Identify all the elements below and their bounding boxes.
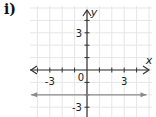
- x-axis-label: x: [145, 54, 153, 67]
- coordinate-plane: -333-30xy: [0, 0, 156, 117]
- axes: [30, 10, 149, 117]
- origin-label: 0: [78, 72, 84, 83]
- line-right-arrow-icon: [141, 92, 147, 97]
- x-tick-label: -3: [45, 76, 55, 87]
- y-tick-label: -3: [72, 102, 82, 113]
- line-left-arrow-icon: [31, 92, 37, 97]
- y-tick-label: 3: [76, 28, 82, 39]
- y-axis-label: y: [90, 6, 98, 19]
- grid-lines: [30, 6, 152, 117]
- x-tick-label: 3: [121, 76, 127, 87]
- plotted-line-y-neg-2: [31, 92, 146, 97]
